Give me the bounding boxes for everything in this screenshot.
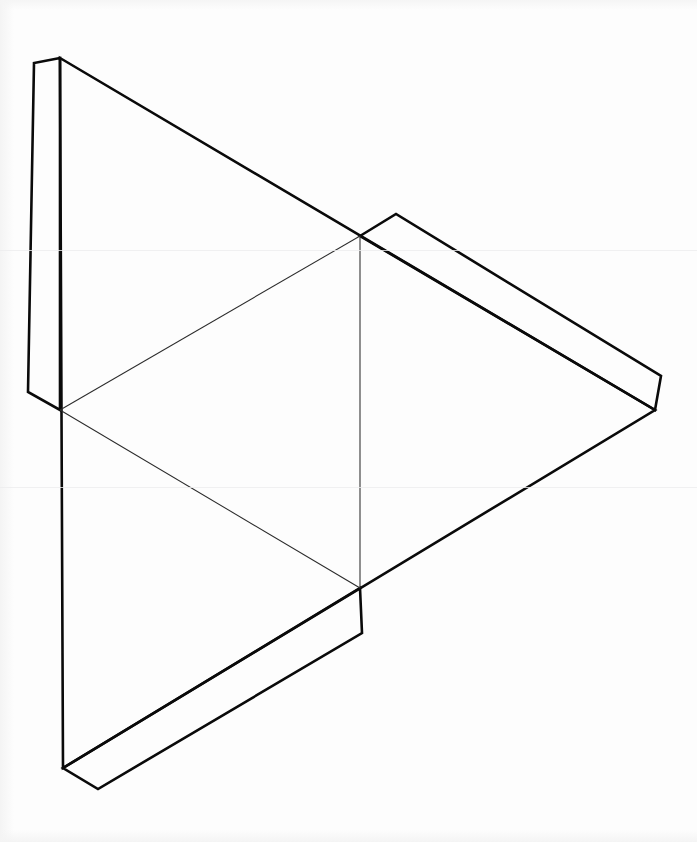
tetrahedron-net-drawing [0,0,697,842]
main-triangle-fill [60,58,655,768]
drawing-page [0,0,697,842]
